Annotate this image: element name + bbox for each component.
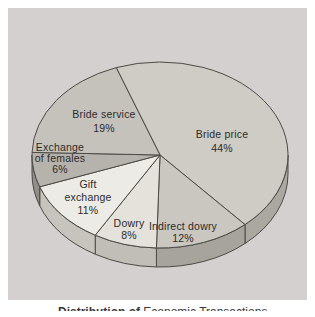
pie-chart-svg [8,8,307,300]
caption-bold-part: Distribution of [58,305,143,311]
caption-rest-part: Economic Transactions [143,305,267,311]
page: { "page": { "background": "#ffffff", "pa… [0,0,315,317]
caption-clip: Distribution of Economic Transactions [58,305,308,311]
figure-caption: Distribution of Economic Transactions [58,305,308,311]
figure-panel: Bride price44%Indirect dowry12%Dowry8%Gi… [8,8,307,300]
